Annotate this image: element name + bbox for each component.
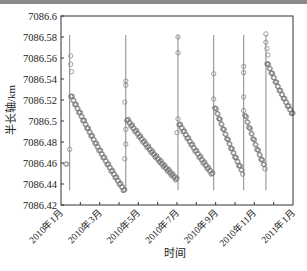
data-point xyxy=(263,167,267,171)
y-tick-label: 7086.42 xyxy=(23,200,57,211)
data-point xyxy=(241,172,245,176)
x-tick-label: 2010年9月 xyxy=(181,207,220,246)
plot-area xyxy=(64,32,296,193)
x-axis: 2010年1月2010年3月2010年5月2010年7月2010年9月2010年… xyxy=(27,202,298,248)
y-tick-label: 7086.46 xyxy=(23,158,57,169)
y-tick-label: 7086.44 xyxy=(23,179,58,190)
data-point xyxy=(175,130,179,134)
y-tick-label: 7086.58 xyxy=(23,32,57,43)
data-point xyxy=(123,100,127,104)
x-tick-label: 2010年1月 xyxy=(27,207,66,246)
y-axis-label: 半长轴/km xyxy=(4,85,17,136)
semi-major-axis-chart: 7086.427086.447086.467086.487086.57086.5… xyxy=(0,0,307,271)
x-tick-label: 2010年5月 xyxy=(104,207,143,246)
x-tick-label: 2010年11月 xyxy=(217,207,259,249)
data-point xyxy=(123,157,127,161)
y-tick-label: 7086.6 xyxy=(28,11,57,22)
y-tick-label: 7086.5 xyxy=(28,116,57,127)
data-point xyxy=(69,54,73,58)
y-tick-label: 7086.52 xyxy=(23,95,57,106)
data-point xyxy=(265,46,269,50)
x-tick-label: 2011年1月 xyxy=(259,207,297,245)
x-tick-label: 2010年3月 xyxy=(65,207,104,246)
y-tick-label: 7086.56 xyxy=(23,53,57,64)
data-point xyxy=(69,62,73,66)
x-tick-label: 2010年7月 xyxy=(143,207,182,246)
y-axis: 7086.427086.447086.467086.487086.57086.5… xyxy=(23,11,64,211)
y-tick-label: 7086.54 xyxy=(23,74,58,85)
y-tick-label: 7086.48 xyxy=(23,137,57,148)
x-axis-label: 时间 xyxy=(164,247,186,259)
